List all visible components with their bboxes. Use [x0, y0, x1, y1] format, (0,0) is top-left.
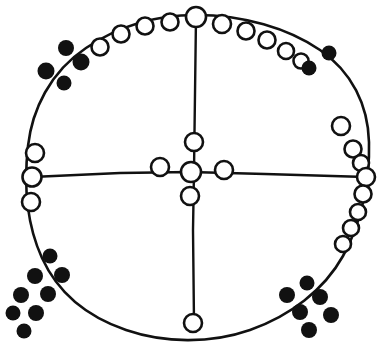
node-top-arc-r1 — [213, 15, 231, 33]
node-ll-dot-3 — [27, 268, 43, 284]
node-ll-dot-5 — [13, 287, 29, 303]
node-ul-dot-1 — [58, 40, 74, 56]
node-right-arc-6 — [343, 220, 359, 236]
node-ll-dot-7 — [6, 306, 21, 321]
node-top-arc-r3 — [259, 32, 276, 49]
node-top-arc-r2 — [238, 23, 255, 40]
node-top-arc-r4 — [278, 43, 294, 59]
node-ul-dot-4 — [57, 76, 72, 91]
node-right-arc-7 — [335, 236, 351, 252]
node-top-arc-l2 — [137, 18, 154, 35]
figure-canvas: Circular node ring diagram with cross ax… — [0, 0, 385, 356]
node-lr-dot-6 — [301, 322, 317, 338]
node-top-center-junction — [186, 7, 206, 27]
node-top-arc-l1 — [162, 14, 179, 31]
node-ll-dot-1 — [43, 249, 58, 264]
node-center-up — [185, 133, 203, 151]
node-ll-dot-8 — [17, 324, 32, 339]
node-ll-dot-2 — [54, 267, 70, 283]
node-lr-dot-1 — [300, 276, 315, 291]
node-right-horizontal-junction — [357, 168, 375, 186]
node-ur-dot-on-arc — [302, 61, 317, 76]
diagram-svg — [0, 0, 385, 356]
node-top-arc-l4 — [92, 39, 109, 56]
node-center-down — [181, 187, 199, 205]
node-ur-dot-floating — [322, 46, 337, 61]
node-lr-dot-5 — [323, 307, 339, 323]
node-lr-dot-4 — [292, 304, 308, 320]
node-lr-dot-2 — [279, 287, 295, 303]
node-group-open-nodes-bottom — [184, 314, 202, 332]
node-right-arc-5 — [350, 204, 366, 220]
node-left-horizontal-junction — [23, 168, 42, 187]
node-ll-dot-4 — [40, 286, 56, 302]
node-ll-dot-6 — [28, 305, 44, 321]
node-center-right — [215, 161, 233, 179]
node-center-left — [151, 158, 169, 176]
node-lr-dot-3 — [312, 289, 328, 305]
node-left-arc-2 — [22, 193, 40, 211]
node-center-hub — [181, 162, 201, 182]
node-right-arc-4 — [355, 186, 372, 203]
node-left-arc-1 — [26, 144, 44, 162]
node-ul-dot-2 — [38, 63, 55, 80]
node-right-arc-1 — [332, 117, 350, 135]
node-ul-dot-3 — [73, 54, 90, 71]
node-bottom-center-junction — [184, 314, 202, 332]
node-group-open-nodes-left-arc — [22, 144, 44, 211]
node-top-arc-l3 — [113, 26, 130, 43]
